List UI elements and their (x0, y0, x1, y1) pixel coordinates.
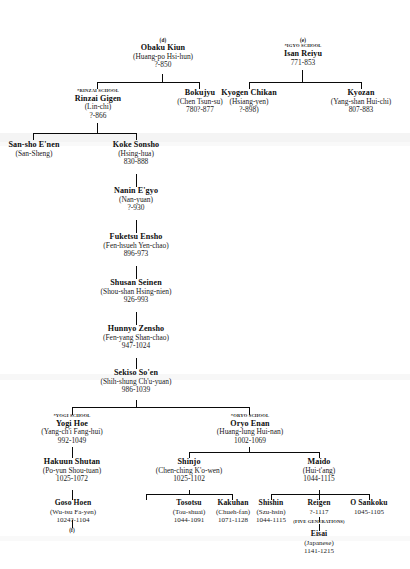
node-oryo-enan: *ORYO SCHOOL Oryo Enan (Huang-lung Hui-n… (194, 413, 306, 446)
node-o-sankoku: O Sankoku 1045-1105 (336, 499, 402, 516)
school-tag-yogi: *YOGI SCHOOL (22, 413, 122, 418)
connector-line (97, 123, 98, 133)
node-isan-reiyu: (e) *IGYO SCHOOL Isan Reiyu 771-853 (248, 37, 358, 67)
node-eisai: Eisai (Japanese) 1141-1215 (284, 530, 354, 555)
lineage-chart: (d) Obaku Kiun (Huang-po Hsi-hun) ?-850 … (0, 0, 410, 569)
node-name: O Sankoku (336, 499, 402, 508)
node-name: Eisai (284, 530, 354, 539)
node-hunnyo-zensho: Hunnyo Zensho (Fen-yang Shan-chao) 947-1… (78, 324, 194, 351)
school-tag-igyo: *IGYO SCHOOL (248, 43, 358, 48)
node-kyozan: Kyozan (Yang-shan Hui-chi) 807-883 (307, 88, 410, 115)
section-label-f: (f) (52, 527, 92, 533)
node-dates: 896-973 (80, 250, 192, 259)
node-san-sho-enen: San-sho E'nen (San-Sheng) (0, 140, 68, 158)
node-shinjo: Shinjo (Chen-ching K'o-wen) 1025-1102 (137, 457, 241, 484)
node-dates: 1025-1102 (137, 475, 241, 484)
node-dates: 1045-1105 (336, 508, 402, 516)
connector-line (189, 452, 320, 453)
node-obaku-kiun: (d) Obaku Kiun (Huang-po Hsi-hun) ?-850 (108, 37, 218, 70)
scan-artifact-band (0, 374, 410, 380)
node-dates: 947-1024 (78, 342, 194, 351)
node-dates: ?-930 (90, 204, 182, 213)
node-kyogen-chikan: Kyogen Chikan (Hsiang-yen) ?-898) (203, 88, 295, 115)
node-dates: 771-853 (248, 59, 358, 68)
node-alt-name: (San-Sheng) (0, 150, 68, 159)
node-nanin-egyo: Nanin E'gyo (Nan-yuan) ?-930 (90, 186, 182, 213)
node-shusan-seinen: Shusan Seinen (Shou-shan Hsing-nien) 926… (76, 278, 196, 305)
node-dates: 1025-1072 (20, 475, 124, 484)
node-yogi-hoe: *YOGI SCHOOL Yogi Hoe (Yang-ch'i Fang-hu… (22, 413, 122, 446)
node-koke-sonsho: Koke Sonsho (Hsing-hua) 830-888 (90, 140, 182, 167)
connector-line (146, 494, 232, 495)
node-dates: 830-888 (90, 158, 182, 167)
node-dates: ?-850 (108, 61, 218, 70)
node-fuketsu-ensho: Fuketsu Ensho (Fen-hsueh Yen-chao) 896-9… (80, 232, 192, 259)
school-tag-oryo: *ORYO SCHOOL (194, 413, 306, 418)
node-maido: Maido (Hui-t'ang) 1044-1115 (279, 457, 359, 484)
node-dates: ?-866 (52, 112, 144, 121)
section-ref-f: (f) (52, 527, 92, 533)
connector-line (33, 133, 34, 140)
school-tag-rinzai: *RINZAI SCHOOL (52, 88, 144, 93)
connector-line (146, 494, 147, 500)
connector-line (136, 133, 137, 140)
connector-line (33, 133, 136, 134)
node-dates: 992-1049 (22, 437, 122, 446)
node-name: Goso Hoen (28, 499, 118, 508)
connector-line (249, 82, 362, 83)
node-dates: ?-898) (203, 106, 295, 115)
node-dates: 1002-1069 (194, 437, 306, 446)
node-rinzai-gigen: *RINZAI SCHOOL Rinzai Gigen (Lin-chi) ?-… (52, 88, 144, 121)
connector-line (302, 70, 303, 82)
node-alt-name: (Japanese) (284, 539, 354, 547)
node-dates: 986-1039 (76, 386, 196, 395)
node-dates: 807-883 (307, 106, 410, 115)
node-alt-name: (Wu-tsu Fa-yen) (28, 508, 118, 516)
node-dates: 926-993 (76, 296, 196, 305)
connector-line (72, 407, 250, 408)
node-dates: 1141-1215 (284, 547, 354, 555)
connector-line (97, 82, 200, 83)
node-dates: 1044-1115 (279, 475, 359, 484)
node-sekiso-soen: Sekiso So'en (Shih-shung Ch'u-yuan) 986-… (76, 368, 196, 395)
node-hakuun-shutan: Hakuun Shutan (Po-yun Shou-tuan) 1025-10… (20, 457, 124, 484)
